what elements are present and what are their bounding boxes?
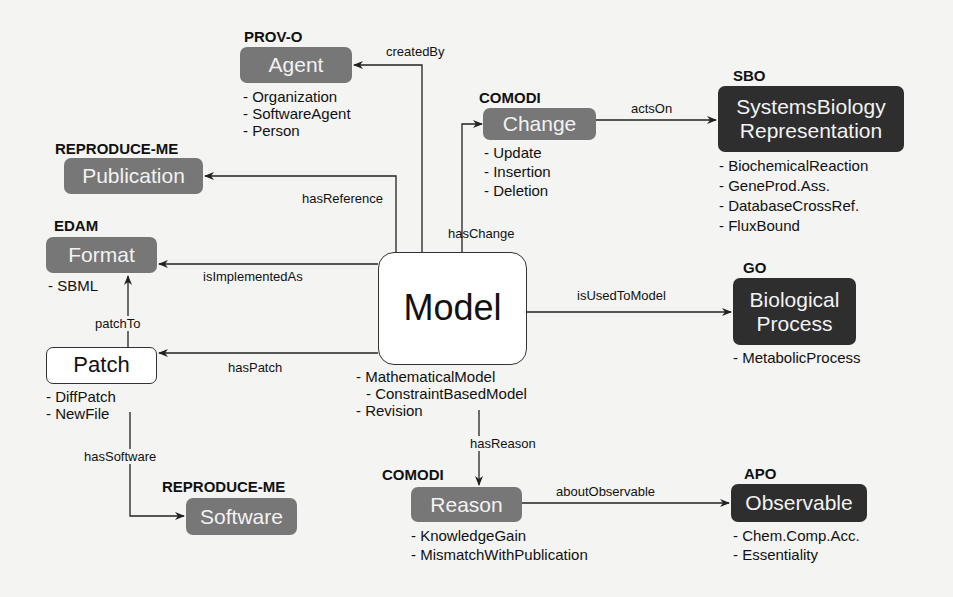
node-publication-label: Publication xyxy=(82,164,185,188)
edge-label-isImplementedAs: isImplementedAs xyxy=(203,269,303,284)
node-observable-label: Observable xyxy=(745,491,852,515)
format-subclasses: - SBML xyxy=(48,277,98,294)
subclass-item: - Essentiality xyxy=(733,545,860,564)
node-software[interactable]: Software xyxy=(186,498,297,535)
node-software-label: Software xyxy=(200,505,283,529)
node-patch[interactable]: Patch xyxy=(46,347,157,384)
model-subclasses: - MathematicalModel - ConstraintBasedMod… xyxy=(356,368,527,419)
edge-hasReference xyxy=(205,176,396,252)
edge-label-aboutObservable: aboutObservable xyxy=(556,484,655,499)
ontology-label-prov-o: PROV-O xyxy=(244,28,302,45)
subclass-item: - DatabaseCrossRef. xyxy=(719,196,868,216)
ontology-label-sbo: SBO xyxy=(733,67,766,84)
subclass-item: - FluxBound xyxy=(719,216,868,236)
edge-label-hasPatch: hasPatch xyxy=(228,360,282,375)
edge-label-hasReference: hasReference xyxy=(302,191,383,206)
ontology-label-apo: APO xyxy=(744,465,777,482)
subclass-item: - Chem.Comp.Acc. xyxy=(733,526,860,545)
edge-label-createdBy: createdBy xyxy=(386,44,445,59)
node-patch-label: Patch xyxy=(73,353,129,378)
subclass-item: - Deletion xyxy=(484,181,551,200)
node-sbo-label-line1: SystemsBiology xyxy=(736,95,885,119)
patch-subclasses: - DiffPatch - NewFile xyxy=(46,388,116,422)
subclass-item: - MathematicalModel xyxy=(356,368,527,385)
edge-label-hasChange: hasChange xyxy=(448,226,515,241)
edge-label-hasSoftware: hasSoftware xyxy=(84,449,156,464)
node-biological-process[interactable]: Biological Process xyxy=(733,278,856,345)
subclass-item: - SBML xyxy=(48,277,98,294)
node-sbo[interactable]: SystemsBiology Representation xyxy=(718,86,904,152)
change-subclasses: - Update - Insertion - Deletion xyxy=(484,143,551,200)
subclass-item: - Organization xyxy=(243,88,351,105)
node-publication[interactable]: Publication xyxy=(64,158,203,194)
ontology-label-go: GO xyxy=(743,259,766,276)
node-reason-label: Reason xyxy=(430,493,502,517)
ontology-label-comodi-2: COMODI xyxy=(382,466,444,483)
subclass-item: - Insertion xyxy=(484,162,551,181)
go-subclasses: - MetabolicProcess xyxy=(733,349,861,366)
observable-subclasses: - Chem.Comp.Acc. - Essentiality xyxy=(733,526,860,564)
node-change-label: Change xyxy=(503,112,577,136)
subclass-item: - MetabolicProcess xyxy=(733,349,861,366)
ontology-label-reproduce-me-2: REPRODUCE-ME xyxy=(162,478,285,495)
subclass-item: - KnowledgeGain xyxy=(411,526,588,545)
subclass-item: - GeneProd.Ass. xyxy=(719,176,868,196)
node-model[interactable]: Model xyxy=(378,252,527,365)
edge-label-patchTo: patchTo xyxy=(95,316,141,331)
node-format[interactable]: Format xyxy=(46,237,157,273)
edge-label-hasReason: hasReason xyxy=(470,436,536,451)
subclass-item: - ConstraintBasedModel xyxy=(356,385,527,402)
edge-createdBy xyxy=(354,65,422,252)
subclass-item: - MismatchWithPublication xyxy=(411,545,588,564)
subclass-item: - Update xyxy=(484,143,551,162)
node-model-label: Model xyxy=(403,288,501,328)
subclass-item: - NewFile xyxy=(46,405,116,422)
ontology-label-edam: EDAM xyxy=(54,217,98,234)
node-sbo-label-line2: Representation xyxy=(740,119,882,143)
ontology-label-reproduce-me: REPRODUCE-ME xyxy=(55,140,178,157)
edge-hasSoftware xyxy=(130,412,184,516)
node-agent[interactable]: Agent xyxy=(240,47,352,83)
node-observable[interactable]: Observable xyxy=(731,484,867,522)
node-reason[interactable]: Reason xyxy=(411,487,522,522)
node-agent-label: Agent xyxy=(269,53,324,77)
reason-subclasses: - KnowledgeGain - MismatchWithPublicatio… xyxy=(411,526,588,564)
ontology-label-comodi: COMODI xyxy=(479,89,541,106)
agent-subclasses: - Organization - SoftwareAgent - Person xyxy=(243,88,351,139)
node-go-label-line2: Process xyxy=(757,312,833,336)
node-go-label-line1: Biological xyxy=(750,288,840,312)
node-format-label: Format xyxy=(68,243,135,267)
edge-label-isUsedToModel: isUsedToModel xyxy=(577,288,666,303)
subclass-item: - DiffPatch xyxy=(46,388,116,405)
subclass-item: - Revision xyxy=(356,402,527,419)
sbo-subclasses: - BiochemicalReaction - GeneProd.Ass. - … xyxy=(719,156,868,236)
subclass-item: - SoftwareAgent xyxy=(243,105,351,122)
subclass-item: - BiochemicalReaction xyxy=(719,156,868,176)
edge-label-actsOn: actsOn xyxy=(631,101,672,116)
subclass-item: - Person xyxy=(243,122,351,139)
node-change[interactable]: Change xyxy=(483,108,596,140)
